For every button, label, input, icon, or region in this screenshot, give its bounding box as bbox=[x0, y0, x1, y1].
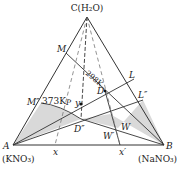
label-L: L bbox=[128, 70, 135, 80]
label-x: x bbox=[53, 147, 58, 157]
label-A: A bbox=[2, 141, 10, 151]
label-y: y bbox=[74, 98, 81, 108]
label-M2: M″ bbox=[26, 97, 40, 107]
label-C: C(H₂O) bbox=[71, 3, 104, 13]
line-A-L bbox=[13, 79, 134, 145]
label-D2: D″ bbox=[73, 124, 85, 134]
label-x2: x′ bbox=[119, 147, 126, 157]
label-NaNO3: (NaNO₃) bbox=[138, 154, 177, 164]
ternary-diagram: C(H₂O) M L M″ L″ D D″ W W′ y P x x′ 298K… bbox=[0, 0, 179, 174]
shaded-region-left bbox=[13, 103, 81, 145]
label-B: B bbox=[165, 141, 173, 151]
label-D: D bbox=[96, 86, 104, 96]
label-W2: W′ bbox=[103, 131, 114, 141]
label-373K: 373K bbox=[42, 96, 66, 106]
label-L2: L″ bbox=[137, 90, 148, 100]
label-P: P bbox=[65, 98, 72, 107]
label-KNO3: (KNO₃) bbox=[2, 154, 35, 164]
label-W: W bbox=[121, 122, 131, 132]
label-M: M bbox=[56, 44, 67, 54]
